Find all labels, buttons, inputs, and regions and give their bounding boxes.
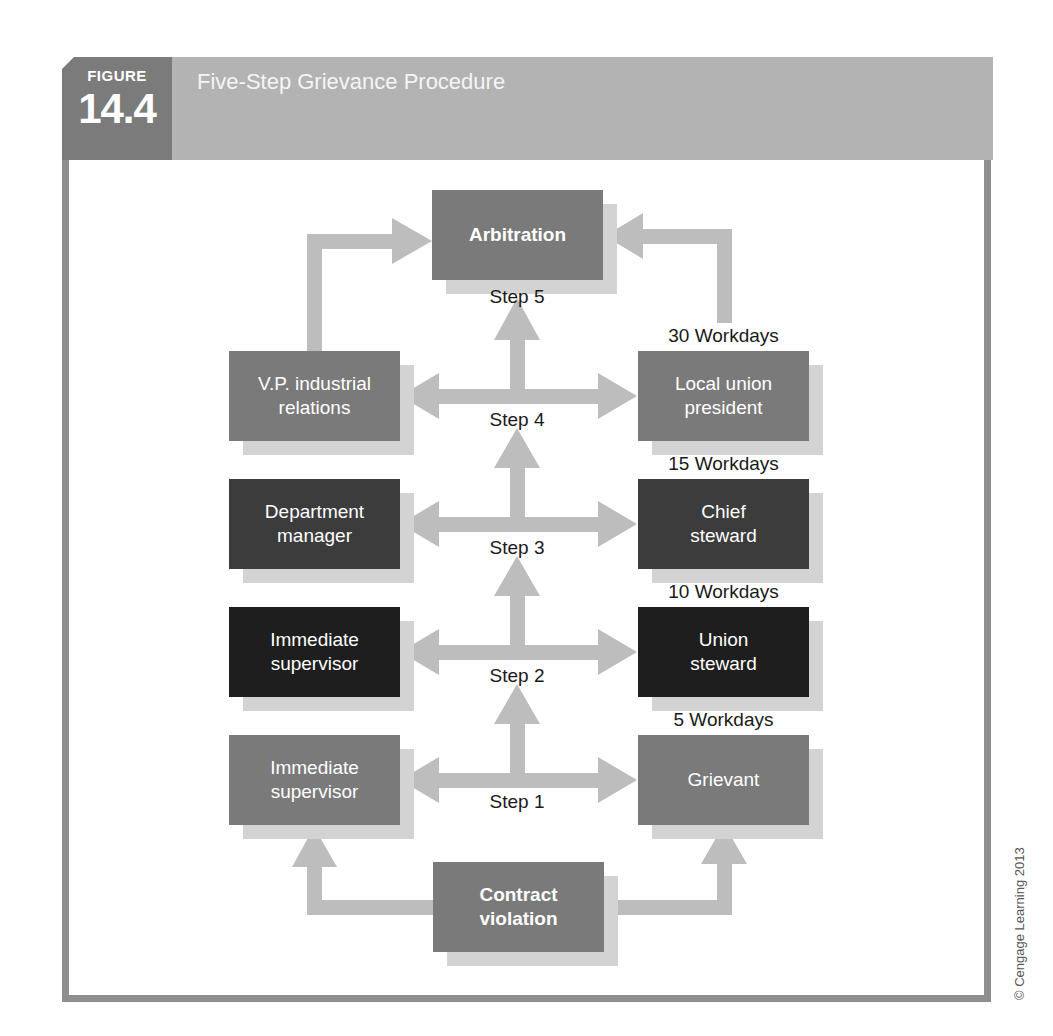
box-department-manager: Department manager [229,479,400,569]
workdays-5-label: 5 Workdays [638,709,809,731]
box-immediate-supervisor-step1: Immediate supervisor [229,735,400,825]
box-union-steward: Union steward [638,607,809,697]
workdays-10-label: 10 Workdays [638,581,809,603]
step-2-label: Step 2 [457,665,577,687]
box-chief-steward: Chief steward [638,479,809,569]
arrow-union-president-to-arbitration [605,213,732,323]
box-contract-violation: Contract violation [433,862,604,952]
box-label-line: Immediate [270,756,359,780]
workdays-30-label: 30 Workdays [638,325,809,347]
box-label-line: Grievant [688,768,760,792]
box-label-line: steward [690,524,757,548]
box-label-line: supervisor [270,780,359,804]
box-label-line: supervisor [270,652,359,676]
arrow-vp-to-arbitration [307,218,432,352]
step-5-label: Step 5 [457,286,577,308]
box-label-line: relations [258,396,371,420]
step-3-label: Step 3 [457,537,577,559]
box-label-line: Local union [675,372,772,396]
workdays-15-label: 15 Workdays [638,453,809,475]
step-4-label: Step 4 [457,409,577,431]
box-label-line: Immediate [270,628,359,652]
arrow-step-2 [400,556,637,675]
arrow-step-3 [400,428,637,547]
box-label-line: manager [265,524,364,548]
box-label-line: president [675,396,772,420]
arrow-step-4 [400,298,637,419]
arrow-step-1 [400,684,637,803]
box-label-line: Chief [690,500,757,524]
step-1-label: Step 1 [457,791,577,813]
box-label: Arbitration [469,223,566,247]
box-label-line: V.P. industrial [258,372,371,396]
box-local-union-president: Local union president [638,351,809,441]
arrow-violation-to-supervisor [292,827,435,915]
box-label-line: Contract [479,883,557,907]
box-label-line: Department [265,500,364,524]
box-label-line: steward [690,652,757,676]
box-label-line: Union [690,628,757,652]
box-label-line: violation [479,907,557,931]
box-immediate-supervisor-step2: Immediate supervisor [229,607,400,697]
box-vp-industrial-relations: V.P. industrial relations [229,351,400,441]
copyright-notice: © Cengage Learning 2013 [1012,847,1027,1000]
arrow-violation-to-grievant [600,824,747,915]
box-arbitration: Arbitration [432,190,603,280]
box-grievant: Grievant [638,735,809,825]
